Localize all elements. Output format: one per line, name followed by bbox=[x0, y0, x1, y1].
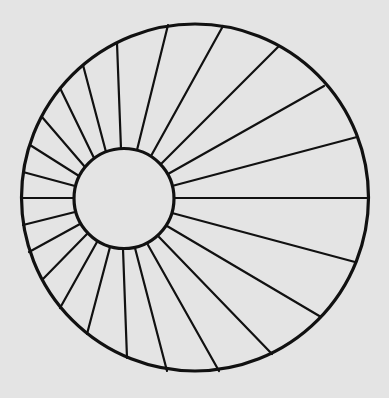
inner-circle bbox=[74, 149, 174, 249]
circle-spoke-diagram bbox=[0, 0, 389, 398]
diagram-canvas: Outer circle with off-center inner circl… bbox=[0, 0, 389, 398]
